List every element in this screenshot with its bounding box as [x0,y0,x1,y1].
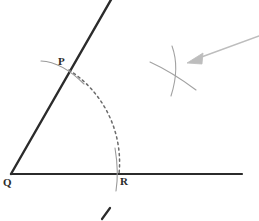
figure-canvas [0,0,259,221]
vertex-label-q: Q [3,177,12,188]
bottom-tick-mark [102,208,110,219]
crossing-arc-mark-shallow [150,62,196,90]
ray-QP [11,0,112,174]
crossing-arc-mark-steep [171,46,176,96]
pointer-arrow-head [187,53,203,64]
vertex-label-p: P [58,56,65,67]
arc-mark-at-R [115,148,117,191]
geometry-figure: P Q R [0,0,259,221]
dashed-arc-PR [69,70,120,174]
vertex-label-r: R [120,176,128,187]
pointer-arrow-shaft [196,36,259,59]
